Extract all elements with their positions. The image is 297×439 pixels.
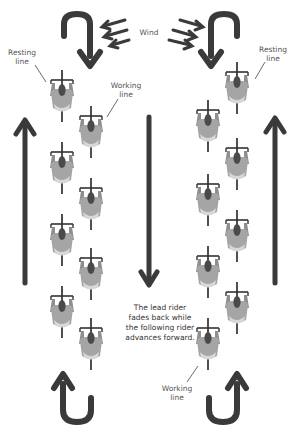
wind-arrows-left-icon bbox=[102, 20, 129, 48]
callout-line-working-right bbox=[187, 366, 198, 382]
rider-icon bbox=[50, 214, 74, 266]
left-resting-line bbox=[50, 70, 74, 338]
working-line-right-label: Working line bbox=[157, 384, 197, 402]
u-turn-arrow-bottom-left-icon bbox=[54, 374, 91, 422]
u-turn-arrow-top-right-icon bbox=[201, 14, 237, 66]
rider-icon bbox=[196, 318, 220, 370]
callout-line-resting-left bbox=[35, 65, 46, 82]
rider-icon bbox=[79, 318, 103, 370]
wind-label: Wind bbox=[137, 28, 161, 37]
rider-icon bbox=[225, 282, 249, 334]
right-resting-line bbox=[225, 62, 249, 334]
resting-line-right-label: Resting line bbox=[255, 45, 291, 63]
rider-icon bbox=[196, 174, 220, 226]
rider-icon bbox=[50, 286, 74, 338]
wind-arrows-right-icon bbox=[169, 20, 203, 49]
working-line-left-label: Working line bbox=[108, 81, 144, 99]
callout-line-working-left bbox=[107, 99, 118, 117]
u-turn-arrow-bottom-right-icon bbox=[209, 374, 246, 422]
rider-icon bbox=[196, 246, 220, 298]
paceline-diagram bbox=[0, 0, 297, 439]
callout-line-resting-right bbox=[255, 62, 265, 79]
arrow-down-center-icon bbox=[141, 117, 157, 285]
rider-icon bbox=[50, 142, 74, 194]
description-note: The lead rider fades back while the foll… bbox=[125, 303, 195, 343]
rider-icon bbox=[50, 70, 74, 122]
u-turn-arrow-top-left-icon bbox=[64, 14, 100, 66]
rider-icon bbox=[225, 62, 249, 114]
rider-icon bbox=[225, 210, 249, 262]
arrow-up-left-icon bbox=[16, 120, 34, 283]
rider-icon bbox=[225, 138, 249, 190]
rider-icon bbox=[79, 106, 103, 158]
left-working-line bbox=[79, 106, 103, 370]
right-working-line bbox=[196, 100, 220, 370]
arrow-up-right-icon bbox=[266, 118, 284, 283]
rider-icon bbox=[79, 248, 103, 300]
rider-icon bbox=[79, 178, 103, 230]
resting-line-left-label: Resting line bbox=[4, 48, 40, 66]
rider-icon bbox=[196, 100, 220, 152]
